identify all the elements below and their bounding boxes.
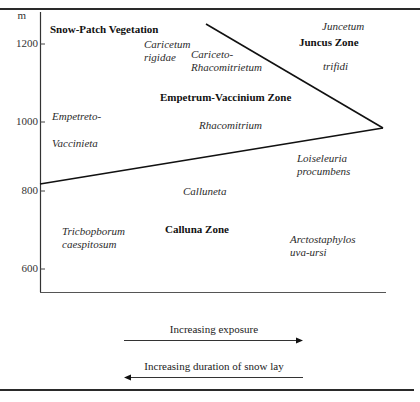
species-arctostaphylos-uva-ursi: Arctostaphylos uva-ursi (290, 233, 356, 259)
snow-lay-arrowhead-icon (124, 375, 131, 381)
exposure-arrowhead-icon (296, 338, 303, 344)
species-line: Caricetum (144, 38, 190, 51)
species-rhacomitrium: Rhacomitrium (199, 119, 262, 132)
species-line: Arctostaphylos (290, 233, 356, 246)
species-trichophorum-caespitosum: Tricbopborum caespitosum (62, 225, 125, 251)
exposure-label: Increasing exposure (124, 323, 304, 336)
species-caricetum-rigidae: Caricetum rigidae (144, 38, 190, 64)
species-calluneta: Calluneta (183, 185, 226, 198)
species-line: caespitosum (62, 238, 125, 251)
species-line: Cariceto- (191, 48, 262, 61)
species-loiseleuria-procumbens: Loiseleuria procumbens (297, 152, 350, 178)
zone-juncus: Juncus Zone (299, 36, 359, 49)
species-cariceto-rhacomitrietum: Cariceto- Rhacomitrietum (191, 48, 262, 74)
species-line: rigidae (144, 51, 190, 64)
species-line: uva-ursi (290, 246, 356, 259)
species-trifidi: trifidi (323, 60, 348, 73)
species-line: Rhacomitrietum (191, 61, 262, 74)
y-tick-label-1200: 1200 (4, 37, 38, 50)
species-line: procumbens (297, 165, 350, 178)
species-line: Tricbopborum (62, 225, 125, 238)
zone-calluna: Calluna Zone (165, 223, 229, 236)
species-juncetum: Juncetum (322, 20, 364, 33)
snow-lay-label: Increasing duration of snow lay (124, 360, 304, 373)
y-tick-label-800: 800 (4, 184, 38, 197)
species-line: Loiseleuria (297, 152, 350, 165)
species-empetreto: Empetreto- (52, 110, 101, 123)
y-tick-label-600: 600 (4, 262, 38, 275)
y-tick-label-1000: 1000 (4, 115, 38, 128)
y-axis-unit: m (0, 9, 26, 22)
zone-empetrum-vaccinium: Empetrum-Vaccinium Zone (160, 91, 291, 104)
species-vaccinieta: Vaccinieta (52, 137, 98, 150)
zone-snow-patch: Snow-Patch Vegetation (50, 23, 158, 36)
